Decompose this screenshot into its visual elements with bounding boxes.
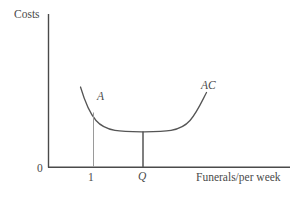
average-cost-curve-figure: Costs 0 1 Q Funerals/per week A AC <box>0 0 300 197</box>
y-axis-label: Costs <box>14 9 40 21</box>
point-a-label: A <box>97 91 104 103</box>
average-cost-curve-label: AC <box>201 80 216 92</box>
x-axis-label: Funerals/per week <box>196 172 281 184</box>
x-tick-label-q: Q <box>138 171 146 183</box>
origin-label: 0 <box>37 163 43 175</box>
x-tick-label-one: 1 <box>88 172 94 184</box>
figure-canvas <box>0 0 300 197</box>
